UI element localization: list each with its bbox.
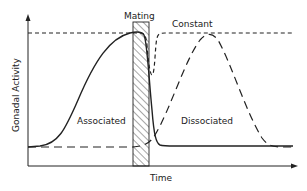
x-axis-arrow-icon — [291, 164, 298, 169]
y-axis-label: Gonadal Activity — [11, 57, 21, 132]
associated-curve — [28, 32, 293, 147]
gonadal-activity-diagram: Mating Constant Associated Dissociated T… — [0, 0, 307, 191]
y-axis-arrow-icon — [26, 14, 31, 21]
associated-label: Associated — [77, 116, 126, 126]
dissociated-label: Dissociated — [181, 116, 233, 126]
constant-label: Constant — [172, 19, 213, 29]
dissociated-curve — [28, 34, 293, 147]
mating-label: Mating — [124, 11, 155, 21]
constant-curve — [28, 33, 293, 75]
x-axis-label: Time — [149, 173, 172, 183]
